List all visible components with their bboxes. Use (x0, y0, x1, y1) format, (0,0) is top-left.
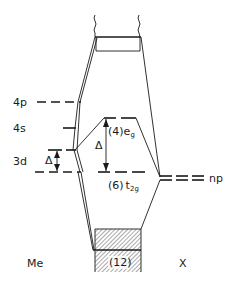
label-me: Me (27, 257, 43, 270)
label-bonding-12: (12) (109, 256, 132, 269)
mo-diagram: 4p 4s 3d Δ Δ (4)eg (6)t2g np (12) Me X (0, 0, 235, 285)
label-4s: 4s (13, 122, 26, 135)
correlation-lines (73, 37, 160, 250)
label-3d: 3d (13, 155, 27, 168)
label-t2g: (6)t2g (108, 179, 139, 193)
antibonding-band (94, 15, 141, 51)
label-complex-delta: Δ (95, 139, 103, 152)
ligand-levels (160, 176, 204, 180)
label-x: X (179, 257, 187, 270)
label-eg: (4)eg (108, 125, 135, 139)
label-metal-delta: Δ (45, 154, 53, 167)
label-4p: 4p (13, 96, 27, 109)
label-np: np (209, 172, 223, 185)
